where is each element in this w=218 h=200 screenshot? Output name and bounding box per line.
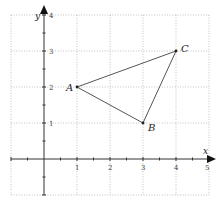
x-axis [11, 157, 210, 161]
point-a-label: A [65, 82, 73, 93]
point-b-label: B [147, 122, 155, 133]
x-axis-label: x [203, 146, 208, 156]
point-c [175, 50, 178, 53]
point-b [142, 122, 145, 125]
point-a [76, 86, 79, 89]
y-tick-2: 2 [49, 84, 53, 92]
x-axis-arrow-icon [207, 155, 216, 163]
y-axis-label: y [34, 11, 41, 21]
point-c-label: C [181, 43, 189, 54]
coordinate-plane: y x 1 2 3 4 5 1 2 3 4 A B C [0, 0, 218, 200]
x-tick-3: 3 [141, 164, 145, 172]
x-tick-5: 5 [205, 164, 209, 172]
x-tick-4: 4 [174, 164, 179, 172]
y-tick-3: 3 [49, 48, 53, 56]
y-tick-1: 1 [49, 120, 53, 128]
y-axis [42, 9, 46, 195]
x-tick-2: 2 [108, 164, 112, 172]
y-axis-arrow-icon [40, 5, 48, 14]
y-tick-4: 4 [49, 12, 54, 20]
x-tick-1: 1 [75, 164, 79, 172]
